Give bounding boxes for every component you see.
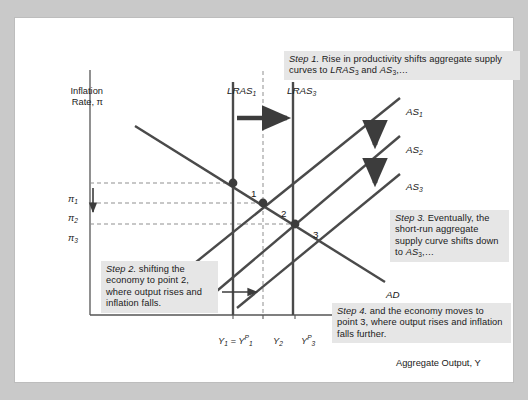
curve-as2 — [205, 136, 400, 301]
curve-label-as3: AS3 — [406, 181, 423, 192]
curve-label-ad: AD — [386, 289, 400, 300]
y-axis-label: Inflation Rate, π — [51, 86, 103, 108]
equilibrium-dot-3 — [291, 220, 300, 229]
callout-step-1-curve-b-sub: 3 — [392, 69, 396, 76]
callout-step-3: Step 3. Eventually, the short-run aggreg… — [390, 210, 509, 262]
figure-root: Inflation Rate, π Aggregate Output, Y LR… — [0, 0, 528, 400]
curve-label-as1: AS1 — [406, 106, 423, 117]
tick-label-pi3: π3 — [68, 233, 78, 243]
tick-label-y2: Y2 — [273, 336, 283, 346]
tick-label-pi1: π1 — [68, 194, 78, 204]
callout-step-1-curve-b: AS — [380, 65, 393, 75]
callout-step-4-number: Step 4. — [337, 306, 367, 316]
x-axis-label: Aggregate Output, Y — [396, 358, 481, 369]
callout-step-3-text-b: ,… — [422, 247, 434, 257]
equilibrium-dot-1 — [229, 179, 238, 188]
callout-step-1-number: Step 1. — [289, 54, 319, 64]
callout-step-2: Step 2. shifting the economy to point 2,… — [101, 261, 218, 313]
curve-label-lras1: LRAS1 — [227, 85, 256, 96]
curve-label-lras3: LRAS3 — [287, 85, 316, 96]
callout-step-1-curve-a: LRAS — [330, 65, 355, 75]
equilibrium-label-2: 2 — [281, 208, 286, 219]
curve-label-as2: AS2 — [406, 144, 423, 155]
figure-card: Inflation Rate, π Aggregate Output, Y LR… — [15, 18, 513, 382]
equilibrium-label-3: 3 — [313, 229, 318, 240]
callout-step-1-text-b: and — [359, 65, 380, 75]
equilibrium-label-1: 1 — [251, 188, 256, 199]
tick-label-pi2: π2 — [68, 213, 78, 223]
callout-step-2-number: Step 2. — [106, 264, 136, 274]
tick-label-y1: Y1 = YP1 — [218, 336, 253, 346]
y-axis-label-line1: Inflation — [70, 86, 103, 96]
y-axis-label-line2: Rate, π — [72, 97, 103, 107]
callout-step-1-text-c: ,… — [396, 65, 408, 75]
callout-step-3-curve-a: AS — [406, 247, 419, 257]
callout-step-1: Step 1. Rise in productivity shifts aggr… — [284, 51, 520, 80]
callout-step-1-curve-a-sub: 3 — [355, 69, 359, 76]
callout-step-3-number: Step 3. — [395, 213, 425, 223]
callout-step-3-curve-a-sub: 3 — [418, 251, 422, 258]
callout-step-4: Step 4. and the economy moves to point 3… — [332, 303, 511, 343]
tick-label-y3: YP3 — [301, 336, 315, 346]
equilibrium-dot-2 — [259, 199, 268, 208]
